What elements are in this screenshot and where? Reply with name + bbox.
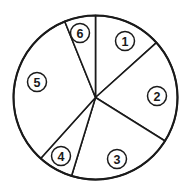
label-text-2: 2 [154,90,161,104]
pie-slice-label-3: 3 [108,150,127,169]
label-text-5: 5 [34,76,41,90]
label-text-4: 4 [58,150,65,164]
pie-chart-svg: 123456 [0,0,192,195]
pie-slice-label-1: 1 [116,32,135,51]
label-text-6: 6 [77,27,84,41]
pie-chart-figure: 123456 [0,0,192,195]
pie-slice-label-4: 4 [52,147,71,166]
label-text-3: 3 [114,153,121,167]
pie-slice-label-6: 6 [71,24,90,43]
pie-slice-label-5: 5 [28,73,47,92]
label-text-1: 1 [122,35,129,49]
pie-slice-label-2: 2 [148,87,167,106]
